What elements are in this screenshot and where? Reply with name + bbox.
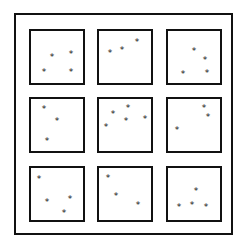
star-marker-icon: * xyxy=(203,69,212,78)
star-marker-icon: * xyxy=(179,70,188,79)
star-marker-icon: * xyxy=(35,175,44,184)
star-marker-icon: * xyxy=(202,203,211,212)
star-marker-icon: * xyxy=(40,68,49,77)
star-marker-icon: * xyxy=(53,117,62,126)
star-marker-icon: * xyxy=(60,209,69,218)
star-marker-icon: * xyxy=(43,137,52,146)
star-marker-icon: * xyxy=(40,105,49,114)
star-marker-icon: * xyxy=(106,49,115,58)
star-marker-icon: * xyxy=(133,38,142,47)
star-marker-icon: * xyxy=(173,126,182,135)
star-marker-icon: * xyxy=(118,46,127,55)
star-marker-icon: * xyxy=(109,110,118,119)
star-marker-icon: * xyxy=(104,174,113,183)
panel-r1-c3 xyxy=(166,29,222,85)
star-marker-icon: * xyxy=(204,113,213,122)
panel-r1-c1 xyxy=(29,29,85,85)
star-marker-icon: * xyxy=(102,123,111,132)
star-marker-icon: * xyxy=(66,195,75,204)
star-marker-icon: * xyxy=(122,117,131,126)
star-marker-icon: * xyxy=(190,47,199,56)
star-marker-icon: * xyxy=(48,53,57,62)
star-marker-icon: * xyxy=(134,201,143,210)
star-marker-icon: * xyxy=(67,50,76,59)
star-marker-icon: * xyxy=(188,201,197,210)
star-marker-icon: * xyxy=(201,56,210,65)
star-marker-icon: * xyxy=(141,115,150,124)
star-marker-icon: * xyxy=(192,187,201,196)
star-marker-icon: * xyxy=(112,192,121,201)
star-marker-icon: * xyxy=(43,198,52,207)
star-marker-icon: * xyxy=(67,68,76,77)
star-marker-icon: * xyxy=(124,104,133,113)
star-marker-icon: * xyxy=(175,203,184,212)
